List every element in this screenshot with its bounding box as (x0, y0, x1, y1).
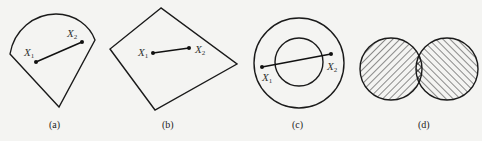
panel-a: X1 X2 (a) (10, 14, 95, 131)
panel-c: X1 X2 (c) (254, 18, 344, 131)
segment-x1-x2 (153, 48, 189, 53)
label-x1: X1 (137, 46, 149, 60)
point-x1 (151, 51, 155, 55)
point-x1 (260, 65, 264, 69)
point-x1 (34, 60, 38, 64)
convex-sets-figure: X1 X2 (a) X1 X2 (b) X1 X2 (c) (0, 0, 482, 141)
label-x2: X2 (66, 27, 78, 41)
sector-shape (10, 14, 95, 107)
caption-d: (d) (418, 119, 430, 131)
panel-d: (d) (360, 38, 478, 131)
label-x2: X2 (194, 43, 206, 57)
inner-circle (275, 38, 323, 86)
point-x2 (80, 40, 84, 44)
quadrilateral-shape (110, 8, 237, 110)
caption-b: (b) (162, 119, 174, 131)
caption-c: (c) (292, 119, 303, 131)
point-x2 (187, 46, 191, 50)
panel-b: X1 X2 (b) (110, 8, 237, 131)
point-x2 (329, 52, 333, 56)
label-x2: X2 (326, 60, 338, 74)
label-x1: X1 (23, 46, 35, 60)
label-x1: X1 (261, 71, 273, 85)
segment-x1-x2 (36, 42, 82, 62)
segment-x1-x2 (262, 54, 331, 67)
caption-a: (a) (49, 119, 60, 131)
